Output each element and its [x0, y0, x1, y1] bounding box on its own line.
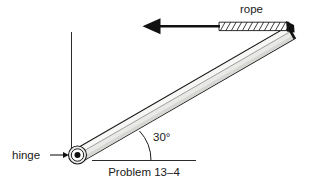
rope-label: rope — [240, 3, 263, 15]
hinge-pivot — [69, 146, 87, 164]
hinge-label: hinge — [12, 149, 40, 161]
rope — [219, 21, 295, 33]
figure-caption: Problem 13–4 — [108, 166, 180, 178]
angle-label: 30° — [153, 131, 170, 143]
hinge-center-dot — [75, 152, 81, 158]
physics-diagram: rope hinge 30° Problem 13–4 — [0, 0, 310, 189]
diagram-canvas: rope hinge 30° Problem 13–4 — [0, 0, 310, 189]
